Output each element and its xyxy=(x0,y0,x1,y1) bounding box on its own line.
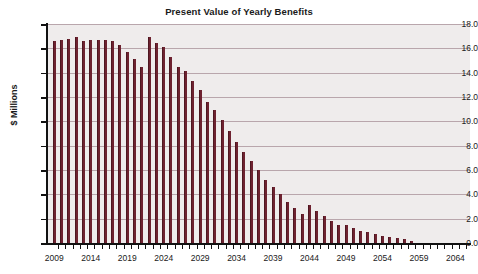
x-tick-mark xyxy=(277,244,278,249)
x-tick-mark xyxy=(299,244,300,249)
x-tick-mark xyxy=(306,244,307,249)
bar xyxy=(60,40,63,243)
y-tick-mark xyxy=(41,146,47,148)
y-tick-label: 16.0 xyxy=(442,43,478,53)
x-tick-mark xyxy=(131,244,132,249)
x-tick-mark xyxy=(379,244,380,249)
x-tick-mark xyxy=(444,244,445,249)
bar xyxy=(89,40,92,243)
x-tick-mark xyxy=(233,244,234,249)
bar xyxy=(293,208,296,243)
x-tick-mark xyxy=(87,244,88,249)
x-tick-mark xyxy=(73,244,74,249)
bar xyxy=(169,57,172,243)
y-tick-label: 14.0 xyxy=(442,68,478,78)
bar xyxy=(359,231,362,243)
x-tick-mark xyxy=(350,244,351,249)
y-axis-title: $ Millions xyxy=(9,45,19,165)
x-tick-mark xyxy=(386,244,387,249)
x-tick-mark xyxy=(408,244,409,249)
x-tick-mark xyxy=(357,244,358,249)
y-tick-label: 2.0 xyxy=(442,214,478,224)
x-tick-mark xyxy=(437,244,438,249)
x-tick-mark xyxy=(226,244,227,249)
y-tick-label: 18.0 xyxy=(442,19,478,29)
x-tick-mark xyxy=(466,244,467,249)
y-tick-mark xyxy=(41,219,47,221)
bar xyxy=(111,41,114,243)
x-tick-label: 2029 xyxy=(180,253,220,263)
x-tick-label: 2044 xyxy=(290,253,330,263)
y-tick-mark xyxy=(41,97,47,99)
x-tick-mark xyxy=(313,244,314,249)
bar xyxy=(191,81,194,243)
x-tick-mark xyxy=(240,244,241,249)
bar xyxy=(206,102,209,243)
bar xyxy=(381,236,384,243)
bar xyxy=(82,41,85,243)
x-tick-mark xyxy=(211,244,212,249)
x-tick-mark xyxy=(364,244,365,249)
y-axis-line xyxy=(46,23,48,244)
x-tick-mark xyxy=(65,244,66,249)
x-tick-label: 2014 xyxy=(71,253,111,263)
x-tick-mark xyxy=(94,244,95,249)
bar xyxy=(279,194,282,243)
x-tick-mark xyxy=(197,244,198,249)
x-tick-mark xyxy=(138,244,139,249)
bar xyxy=(374,234,377,243)
x-tick-mark xyxy=(459,244,460,249)
x-tick-mark xyxy=(401,244,402,249)
x-tick-mark xyxy=(124,244,125,249)
x-tick-mark xyxy=(145,244,146,249)
y-tick-mark xyxy=(41,24,47,26)
x-tick-label: 2064 xyxy=(435,253,475,263)
x-tick-mark xyxy=(393,244,394,249)
y-tick-mark xyxy=(41,48,47,50)
x-tick-mark xyxy=(218,244,219,249)
x-tick-label: 2024 xyxy=(144,253,184,263)
x-tick-mark xyxy=(153,244,154,249)
x-tick-mark xyxy=(372,244,373,249)
bar xyxy=(308,205,311,243)
bar xyxy=(330,221,333,243)
bar xyxy=(272,187,275,243)
bar xyxy=(264,180,267,243)
bar xyxy=(235,142,238,243)
x-tick-mark xyxy=(255,244,256,249)
bar xyxy=(366,232,369,243)
x-tick-mark xyxy=(116,244,117,249)
bar xyxy=(162,47,165,243)
bar xyxy=(67,39,70,243)
x-tick-mark xyxy=(342,244,343,249)
x-tick-mark xyxy=(102,244,103,249)
bar xyxy=(104,40,107,243)
x-tick-mark xyxy=(248,244,249,249)
x-tick-mark xyxy=(160,244,161,249)
x-tick-mark xyxy=(109,244,110,249)
x-tick-mark xyxy=(269,244,270,249)
y-tick-mark xyxy=(41,194,47,196)
x-tick-label: 2059 xyxy=(399,253,439,263)
plot-area xyxy=(47,24,470,243)
x-tick-label: 2009 xyxy=(34,253,74,263)
bar xyxy=(352,228,355,243)
y-tick-label: 8.0 xyxy=(442,141,478,151)
x-tick-mark xyxy=(291,244,292,249)
bar xyxy=(242,152,245,243)
x-tick-label: 2034 xyxy=(217,253,257,263)
bar xyxy=(199,90,202,243)
x-tick-label: 2019 xyxy=(107,253,147,263)
x-tick-mark xyxy=(167,244,168,249)
x-tick-mark xyxy=(182,244,183,249)
x-tick-label: 2039 xyxy=(253,253,293,263)
x-tick-label: 2049 xyxy=(326,253,366,263)
bar xyxy=(286,202,289,243)
y-tick-mark xyxy=(41,73,47,75)
bar xyxy=(75,37,78,243)
x-tick-mark xyxy=(58,244,59,249)
bar xyxy=(250,161,253,243)
y-tick-mark xyxy=(41,170,47,172)
bar xyxy=(184,71,187,243)
x-tick-mark xyxy=(452,244,453,249)
